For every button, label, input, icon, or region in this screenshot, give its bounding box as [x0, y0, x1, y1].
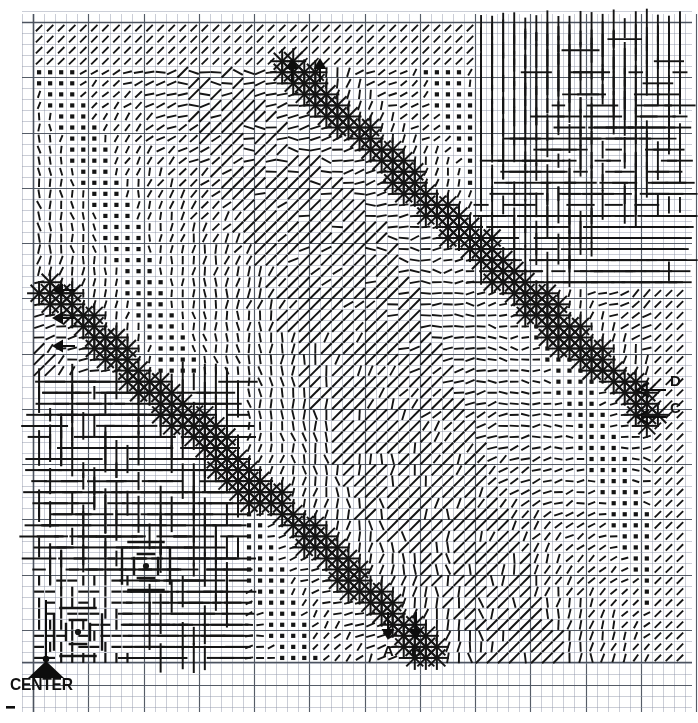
annotation-arrows — [0, 0, 698, 723]
label-a: A — [383, 642, 394, 659]
figure-canvas: ABCDCENTER — [0, 0, 698, 723]
label-center: CENTER — [10, 675, 73, 695]
label-c: C — [670, 399, 681, 416]
label-b: B — [411, 642, 422, 659]
label-d: D — [670, 372, 681, 389]
